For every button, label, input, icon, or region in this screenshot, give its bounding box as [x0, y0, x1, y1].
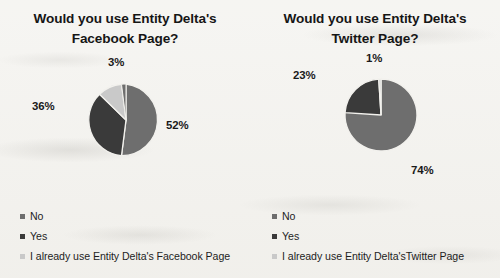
- chart-panel-twitter: Would you use Entity Delta's Twitter Pag…: [250, 0, 500, 278]
- legend-label-twitter-yes: Yes: [282, 230, 299, 242]
- legend-label-facebook-no: No: [30, 210, 43, 222]
- legend-swatch-icon-no: [272, 214, 277, 219]
- legend-label-facebook-already: I already use Entity Delta's Facebook Pa…: [30, 250, 230, 262]
- chart-title-facebook-line1: Would you use Entity Delta's: [8, 9, 242, 29]
- chart-title-twitter-line1: Would you use Entity Delta's: [258, 9, 492, 29]
- legend-item-facebook-no[interactable]: No: [20, 206, 230, 226]
- legend-facebook: No Yes I already use Entity Delta's Face…: [20, 206, 230, 266]
- legend-swatch-icon-yes: [272, 234, 277, 239]
- legend-label-facebook-yes: Yes: [30, 230, 47, 242]
- legend-label-twitter-no: No: [282, 210, 295, 222]
- pie-slice-facebook-no: [121, 84, 157, 156]
- pie-svg-twitter: [343, 77, 419, 153]
- pie-label-twitter-already: 1%: [366, 52, 382, 64]
- pie-chart-facebook: [88, 82, 164, 158]
- legend-item-facebook-already[interactable]: I already use Entity Delta's Facebook Pa…: [20, 246, 230, 266]
- legend-item-twitter-yes[interactable]: Yes: [272, 226, 464, 246]
- two-pie-chart-figure: Would you use Entity Delta's Facebook Pa…: [0, 0, 500, 278]
- legend-swatch-icon-already: [272, 254, 277, 259]
- legend-swatch-icon-no: [20, 214, 25, 219]
- legend-twitter: No Yes I already use Entity Delta'sTwitt…: [272, 206, 464, 266]
- pie-svg-facebook: [88, 82, 164, 158]
- chart-title-twitter: Would you use Entity Delta's Twitter Pag…: [258, 9, 492, 49]
- chart-panel-facebook: Would you use Entity Delta's Facebook Pa…: [0, 0, 250, 278]
- pie-label-facebook-yes: 36%: [32, 100, 55, 112]
- chart-title-facebook: Would you use Entity Delta's Facebook Pa…: [8, 9, 242, 49]
- chart-title-twitter-line2: Twitter Page?: [258, 29, 492, 49]
- pie-chart-twitter: [343, 77, 419, 153]
- pie-label-facebook-no: 52%: [166, 119, 189, 131]
- chart-title-facebook-line2: Facebook Page?: [8, 29, 242, 49]
- legend-item-twitter-no[interactable]: No: [272, 206, 464, 226]
- pie-label-twitter-yes: 23%: [293, 69, 316, 81]
- legend-item-facebook-yes[interactable]: Yes: [20, 226, 230, 246]
- legend-item-twitter-already[interactable]: I already use Entity Delta'sTwitter Page: [272, 246, 464, 266]
- pie-slice-twitter-yes: [345, 79, 381, 115]
- legend-swatch-icon-yes: [20, 234, 25, 239]
- pie-label-twitter-no: 74%: [411, 164, 434, 176]
- pie-label-facebook-already: 3%: [108, 56, 124, 68]
- legend-label-twitter-already: I already use Entity Delta'sTwitter Page: [282, 250, 464, 262]
- legend-swatch-icon-already: [20, 254, 25, 259]
